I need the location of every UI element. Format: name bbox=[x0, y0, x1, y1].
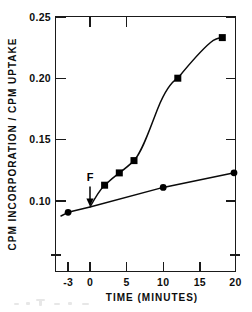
data-point-square-3 bbox=[174, 75, 181, 82]
data-point-circle-2 bbox=[231, 169, 238, 176]
x-tick-label-0: -3 bbox=[63, 276, 73, 288]
x-tick-labels: -3 0 5 10 15 20 bbox=[63, 276, 242, 288]
data-point-circle-1 bbox=[160, 184, 167, 191]
series-stimulated bbox=[90, 38, 222, 207]
x-axis-ticks bbox=[68, 262, 235, 272]
x-tick-label-4: 15 bbox=[194, 276, 206, 288]
y-tick-labels: 0.25 0.20 0.15 0.10 bbox=[29, 11, 51, 207]
chart-canvas: 0.25 0.20 0.15 0.10 -3 0 5 10 15 20 TIME… bbox=[0, 0, 252, 312]
figure-container: 0.25 0.20 0.15 0.10 -3 0 5 10 15 20 TIME… bbox=[0, 0, 252, 312]
data-point-circle-0 bbox=[65, 209, 72, 216]
data-point-square-2 bbox=[131, 157, 138, 164]
y-tick-label-3: 0.10 bbox=[29, 195, 51, 207]
x-axis-title: TIME (MINUTES) bbox=[106, 292, 198, 303]
x-axis-ticks-top bbox=[90, 17, 127, 27]
y-tick-label-2: 0.15 bbox=[29, 133, 51, 145]
x-tick-label-5: 20 bbox=[229, 276, 241, 288]
data-point-square-4 bbox=[219, 34, 226, 41]
x-tick-label-2: 5 bbox=[124, 276, 130, 288]
annotation-label-f: F bbox=[87, 171, 94, 183]
series-stimulated-markers bbox=[101, 34, 226, 189]
x-tick-label-1: 0 bbox=[87, 276, 93, 288]
y-axis-ticks bbox=[51, 17, 66, 255]
y-tick-label-1: 0.20 bbox=[29, 72, 51, 84]
x-tick-label-3: 10 bbox=[157, 276, 169, 288]
series-stimulated-curve bbox=[90, 38, 222, 207]
data-point-square-1 bbox=[116, 169, 123, 176]
data-point-square-0 bbox=[101, 182, 108, 189]
plot-frame bbox=[56, 17, 236, 272]
y-tick-label-0: 0.25 bbox=[29, 11, 51, 23]
y-axis-title: CPM INCORPORATION / CPM UPTAKE bbox=[7, 38, 18, 251]
y-axis-ticks-right bbox=[226, 17, 241, 255]
